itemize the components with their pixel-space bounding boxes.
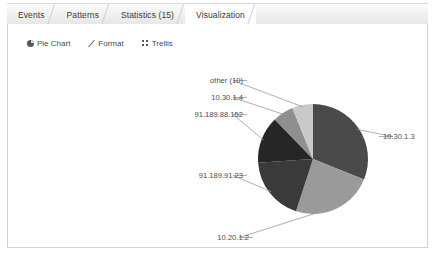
- pie-label-91-189-91-23: 91.189.91.23: [199, 171, 243, 180]
- tab-bar-filler: [256, 4, 428, 25]
- tab-visualization[interactable]: Visualization: [185, 4, 256, 25]
- pie-label-10-30-1-4: 10.30.1.4: [211, 93, 243, 102]
- pie-leader-line: [233, 81, 303, 107]
- panel-content: Pie Chart Format Trellis other (10)10.30…: [7, 24, 428, 248]
- pie-label-91-189-88-152: 91.189.88.152: [194, 110, 243, 119]
- tab-patterns-label: Patterns: [67, 10, 99, 20]
- pie-label-other-10-: other (10): [210, 76, 243, 85]
- pie-label-10-30-1-3: 10.30.1.3: [383, 132, 415, 141]
- tab-bar: Events Patterns Statistics (15) Visualiz…: [7, 3, 428, 25]
- tab-patterns[interactable]: Patterns: [56, 4, 110, 25]
- tab-statistics-label: Statistics (15): [121, 10, 174, 20]
- pie-chart-area: other (10)10.30.1.491.189.88.15291.189.9…: [8, 24, 427, 246]
- tab-events-label: Events: [18, 10, 45, 20]
- pie-chart-svg[interactable]: other (10)10.30.1.491.189.88.15291.189.9…: [8, 24, 427, 246]
- tab-visualization-label: Visualization: [196, 10, 245, 20]
- tab-events[interactable]: Events: [7, 4, 56, 25]
- app-root: Events Patterns Statistics (15) Visualiz…: [0, 0, 437, 259]
- tab-statistics[interactable]: Statistics (15): [110, 4, 185, 25]
- pie-label-10-20-1-2: 10.20.1.2: [217, 233, 249, 242]
- pie-leader-line: [239, 207, 335, 237]
